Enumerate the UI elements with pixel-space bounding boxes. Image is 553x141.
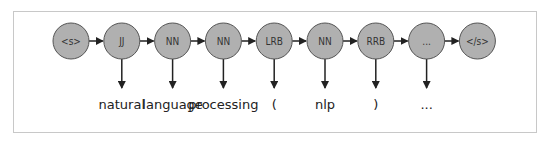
state-label: NN (318, 36, 331, 47)
state-label: LRB (265, 36, 282, 47)
observed-word: ) (373, 97, 378, 112)
state-label: </s> (466, 36, 489, 47)
state-label: <s> (61, 36, 81, 47)
observed-word: nlp (315, 97, 335, 112)
emission-arrows (122, 59, 427, 88)
hmm-diagram: <s>JJNNNNLRBNNRRB...</s> naturallanguage… (0, 0, 553, 141)
state-nodes: <s>JJNNNNLRBNNRRB...</s> (53, 23, 495, 59)
state-label: NN (166, 36, 179, 47)
observed-word: processing (188, 97, 258, 112)
state-label: ... (422, 36, 431, 47)
state-label: NN (217, 36, 230, 47)
state-label: RRB (366, 36, 385, 47)
observed-word: ( (272, 97, 277, 112)
observed-word: ... (420, 97, 432, 112)
state-label: JJ (118, 36, 124, 47)
observed-word: natural (99, 97, 145, 112)
observed-words: naturallanguageprocessing(nlp)... (99, 97, 433, 112)
